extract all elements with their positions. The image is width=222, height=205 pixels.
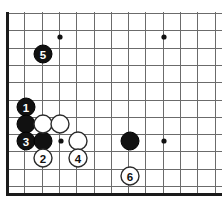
stone-white-2[interactable]: 2 — [34, 149, 52, 167]
stone-disc — [51, 115, 69, 133]
goban-svg[interactable]: 135246 — [0, 0, 222, 205]
stone-move-number: 4 — [75, 153, 82, 165]
stone-white[interactable] — [69, 132, 87, 150]
star-top-right — [161, 34, 166, 39]
stone-black-1[interactable]: 1 — [17, 98, 35, 116]
stone-disc — [17, 115, 35, 133]
board-edges — [6, 12, 222, 195]
stone-move-number: 1 — [23, 102, 30, 114]
stone-black[interactable] — [34, 132, 52, 150]
go-board-diagram: 135246 — [0, 0, 222, 205]
stone-white-4[interactable]: 4 — [69, 149, 87, 167]
stones-layer[interactable]: 135246 — [17, 45, 139, 185]
star-points — [57, 34, 166, 143]
stone-disc — [34, 132, 52, 150]
stone-black-5[interactable]: 5 — [34, 45, 52, 63]
stone-black[interactable] — [121, 132, 139, 150]
stone-disc — [34, 115, 52, 133]
stone-white[interactable] — [51, 115, 69, 133]
stone-move-number: 5 — [40, 49, 47, 61]
stone-black[interactable] — [17, 115, 35, 133]
star-bottom-right — [161, 138, 166, 143]
stone-move-number: 6 — [127, 171, 133, 183]
stone-white[interactable] — [34, 115, 52, 133]
stone-disc — [69, 132, 87, 150]
stone-white-6[interactable]: 6 — [121, 167, 139, 185]
stone-move-number: 2 — [40, 153, 46, 165]
stone-move-number: 3 — [23, 136, 29, 148]
stone-black-3[interactable]: 3 — [17, 132, 35, 150]
stone-disc — [121, 132, 139, 150]
star-bottom-left — [58, 138, 63, 143]
star-top-left — [57, 34, 62, 39]
